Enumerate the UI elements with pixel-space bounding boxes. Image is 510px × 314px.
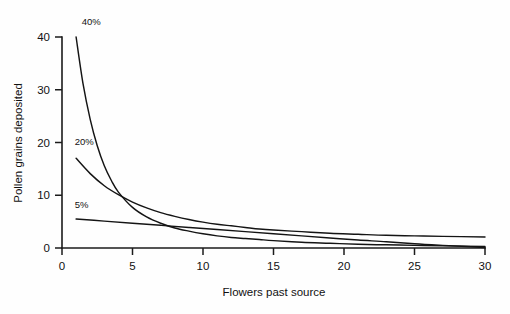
y-axis-tick-labels: 010203040 (37, 31, 50, 254)
y-tick-label: 30 (37, 84, 50, 96)
pollen-deposition-line-chart: 010203040 051015202530 40%20%5% Flowers … (0, 0, 510, 314)
x-axis-title: Flowers past source (223, 286, 326, 298)
y-tick-label: 40 (37, 31, 50, 43)
curve-5pct (76, 219, 485, 247)
x-axis-ticks (62, 248, 485, 255)
series-label-5pct: 5% (75, 199, 89, 210)
x-tick-label: 15 (267, 260, 280, 272)
x-tick-label: 25 (408, 260, 421, 272)
x-axis-tick-labels: 051015202530 (59, 260, 492, 272)
data-series-curves (76, 37, 485, 247)
x-tick-label: 10 (197, 260, 210, 272)
y-tick-label: 20 (37, 137, 50, 149)
x-tick-label: 20 (338, 260, 351, 272)
y-axis-title: Pollen grains deposited (12, 83, 24, 203)
y-tick-label: 0 (44, 242, 50, 254)
x-tick-label: 0 (59, 260, 65, 272)
y-tick-label: 10 (37, 189, 50, 201)
x-tick-label: 30 (479, 260, 492, 272)
series-label-20pct: 20% (75, 136, 95, 147)
curve-40pct (76, 37, 485, 246)
x-tick-label: 5 (129, 260, 135, 272)
series-label-40pct: 40% (82, 16, 102, 27)
chart-figure: 010203040 051015202530 40%20%5% Flowers … (0, 0, 510, 314)
y-axis-ticks (55, 37, 62, 248)
curve-20pct (76, 158, 485, 237)
